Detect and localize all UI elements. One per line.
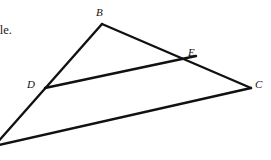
vertex-label-d: D	[27, 79, 35, 90]
diagram-canvas: r riangle. e B E C D	[0, 0, 271, 160]
vertex-label-e: E	[188, 47, 195, 58]
segment-B-C	[102, 24, 251, 88]
vertex-label-c: C	[255, 79, 262, 90]
segment-D-E	[45, 56, 196, 88]
vertex-label-b: B	[96, 7, 103, 18]
geometry-figure	[0, 0, 271, 160]
